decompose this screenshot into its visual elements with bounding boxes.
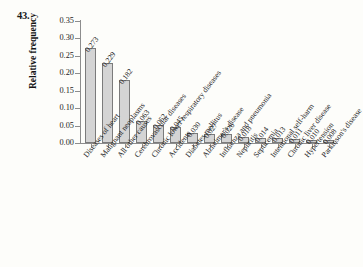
y-tick-label: 0.05: [50, 121, 74, 130]
bar: [85, 48, 96, 143]
y-tick-label: 0.00: [50, 138, 74, 147]
y-axis-tick-labels: 0.000.050.100.150.200.250.300.35: [48, 0, 74, 267]
y-tick-mark: [75, 91, 80, 92]
y-tick-label: 0.10: [50, 103, 74, 112]
y-tick-mark: [75, 56, 80, 57]
y-tick-label: 0.15: [50, 86, 74, 95]
y-tick-mark: [75, 38, 80, 39]
y-tick-label: 0.35: [50, 16, 74, 25]
y-tick-mark: [75, 73, 80, 74]
y-tick-mark: [75, 143, 80, 144]
y-tick-label: 0.25: [50, 51, 74, 60]
y-tick-mark: [75, 21, 80, 22]
y-tick-mark: [75, 126, 80, 127]
bar-value-label: 0.182: [116, 67, 134, 86]
y-tick-mark: [75, 108, 80, 109]
y-tick-label: 0.30: [50, 33, 74, 42]
y-axis-title: Relative frequency: [28, 1, 38, 101]
y-tick-label: 0.20: [50, 68, 74, 77]
